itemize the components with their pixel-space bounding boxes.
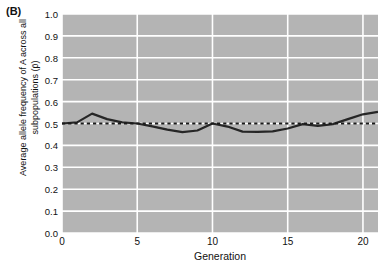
x-axis-title: Generation xyxy=(62,250,378,262)
x-tick-label: 0 xyxy=(47,236,77,247)
x-axis-tick-labels: 05101520 xyxy=(0,0,385,269)
x-tick-label: 15 xyxy=(273,236,303,247)
figure-panel-b: (B) Average allele frequency of A across… xyxy=(0,0,385,269)
x-tick-label: 5 xyxy=(122,236,152,247)
x-tick-label: 20 xyxy=(348,236,378,247)
x-tick-label: 10 xyxy=(197,236,227,247)
